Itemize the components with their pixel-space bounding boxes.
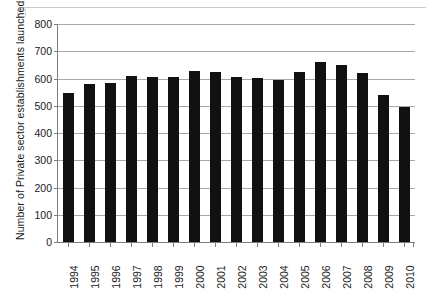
x-label-slot: 2000: [183, 248, 204, 284]
y-tick-label-800: 800: [34, 18, 52, 30]
x-tick-mark-1997: [131, 242, 132, 247]
bar-2001[interactable]: [210, 72, 221, 242]
x-label-slot: 1996: [99, 248, 120, 284]
bar-1995[interactable]: [84, 84, 95, 242]
x-label-slot: 2004: [267, 248, 288, 284]
x-label-slot: 1998: [141, 248, 162, 284]
x-tick-mark-1994: [68, 242, 69, 247]
bar-slot: [289, 24, 310, 242]
bar-slot: [142, 24, 163, 242]
bar-1994[interactable]: [63, 93, 74, 242]
x-label-slot: 2002: [225, 248, 246, 284]
bar-slot: [268, 24, 289, 242]
y-tick-label-600: 600: [34, 73, 52, 85]
x-label-slot: 1995: [78, 248, 99, 284]
x-label-slot: 2003: [246, 248, 267, 284]
x-label-slot: 2001: [204, 248, 225, 284]
bar-1998[interactable]: [147, 77, 158, 242]
x-label-slot: 1997: [120, 248, 141, 284]
bar-slot: [121, 24, 142, 242]
x-tick-mark-2006: [320, 242, 321, 247]
bar-chart: Number of Private sector establishments …: [0, 14, 428, 285]
x-label-slot: 2010: [393, 248, 414, 284]
x-axis-label-2010: 2010: [404, 265, 416, 288]
bar-2004[interactable]: [273, 80, 284, 242]
bar-slot: [331, 24, 352, 242]
bar-slot: [352, 24, 373, 242]
bar-slot: [205, 24, 226, 242]
bar-slot: [163, 24, 184, 242]
bar-1999[interactable]: [168, 77, 179, 242]
x-tick-mark-2007: [341, 242, 342, 247]
bar-series: [58, 24, 415, 242]
plot-area: 0100200300400500600700800: [57, 24, 415, 243]
bar-2006[interactable]: [315, 62, 326, 242]
x-tick-mark-1996: [110, 242, 111, 247]
x-label-slot: 2007: [330, 248, 351, 284]
bar-2005[interactable]: [294, 72, 305, 242]
bar-1996[interactable]: [105, 83, 116, 242]
bar-slot: [100, 24, 121, 242]
x-tick-mark-2001: [215, 242, 216, 247]
bar-slot: [184, 24, 205, 242]
y-tick-label-700: 700: [34, 45, 52, 57]
bar-2010[interactable]: [399, 107, 410, 242]
x-label-slot: 2008: [351, 248, 372, 284]
y-tick-label-400: 400: [34, 127, 52, 139]
bar-2007[interactable]: [336, 65, 347, 242]
bar-2002[interactable]: [231, 77, 242, 242]
bar-2003[interactable]: [252, 78, 263, 242]
bar-slot: [310, 24, 331, 242]
bar-slot: [373, 24, 394, 242]
y-tick-label-300: 300: [34, 154, 52, 166]
y-tick-label-500: 500: [34, 100, 52, 112]
page-horizontal-rule: [20, 7, 426, 8]
bar-slot: [394, 24, 415, 242]
y-tick-label-0: 0: [46, 236, 52, 248]
scan-artifact-band: [0, 0, 428, 14]
x-tick-mark-1999: [173, 242, 174, 247]
x-label-slot: 1994: [57, 248, 78, 284]
x-tick-mark-2003: [257, 242, 258, 247]
y-axis-title: Number of Private sector establishments …: [14, 8, 26, 240]
bar-slot: [58, 24, 79, 242]
x-tick-mark-2004: [278, 242, 279, 247]
x-label-slot: 2006: [309, 248, 330, 284]
x-tick-mark-2005: [299, 242, 300, 247]
bar-slot: [226, 24, 247, 242]
x-label-slot: 2005: [288, 248, 309, 284]
y-tick-label-100: 100: [34, 209, 52, 221]
x-axis-labels: 1994199519961997199819992000200120022003…: [57, 248, 414, 284]
x-tick-mark-2000: [194, 242, 195, 247]
bar-1997[interactable]: [126, 76, 137, 242]
x-label-slot: 2009: [372, 248, 393, 284]
x-label-slot: 1999: [162, 248, 183, 284]
bar-slot: [247, 24, 268, 242]
y-tick-label-200: 200: [34, 182, 52, 194]
x-tick-mark-1998: [152, 242, 153, 247]
bar-2009[interactable]: [378, 95, 389, 242]
x-tick-mark-end: [413, 242, 414, 247]
x-tick-mark-2008: [362, 242, 363, 247]
x-tick-mark-2002: [236, 242, 237, 247]
x-tick-mark-2010: [404, 242, 405, 247]
bar-slot: [79, 24, 100, 242]
bar-2008[interactable]: [357, 73, 368, 242]
bar-2000[interactable]: [189, 71, 200, 242]
x-tick-mark-1995: [89, 242, 90, 247]
x-tick-mark-2009: [383, 242, 384, 247]
